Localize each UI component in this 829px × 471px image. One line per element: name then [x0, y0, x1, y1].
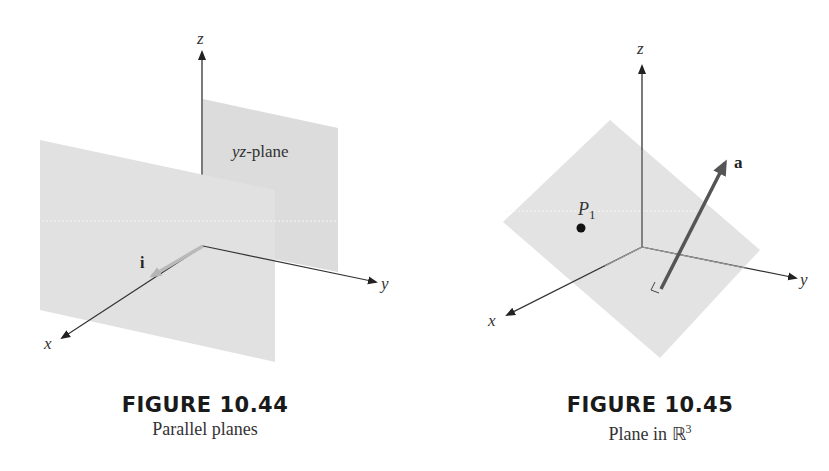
- y-axis-2-label: y: [798, 270, 808, 289]
- point-p1: [577, 224, 586, 233]
- plane-diamond: [503, 120, 760, 358]
- yz-plane-label-rest: -plane: [246, 142, 288, 161]
- caption-subtitle-text: Plane in: [609, 424, 672, 444]
- yz-plane-label: yz-plane: [230, 142, 289, 161]
- caption-title: FIGURE 10.45: [520, 392, 780, 418]
- caption-superscript: 3: [686, 422, 692, 436]
- caption-subtitle: Plane in ℝ3: [520, 418, 780, 445]
- point-p1-subscript: 1: [589, 207, 596, 222]
- real-numbers-symbol: ℝ: [672, 424, 686, 444]
- vector-i-label: i: [140, 254, 145, 271]
- z-axis-label: z: [196, 29, 204, 48]
- x-axis-2-label: x: [487, 311, 496, 330]
- caption-subtitle: Parallel planes: [75, 418, 335, 440]
- z-axis-2-label: z: [636, 39, 644, 58]
- vector-a-label: a: [734, 153, 743, 172]
- figure-page: z y x i yz-plane z y x a P1 FIGURE 10: [0, 0, 829, 471]
- yz-plane-label-italic: yz: [230, 142, 247, 161]
- caption-figure-10-44: FIGURE 10.44 Parallel planes: [75, 392, 335, 440]
- caption-figure-10-45: FIGURE 10.45 Plane in ℝ3: [520, 392, 780, 445]
- caption-title: FIGURE 10.44: [75, 392, 335, 418]
- x-axis-label: x: [43, 334, 52, 353]
- y-axis-label: y: [379, 274, 389, 293]
- point-p1-letter: P: [577, 199, 589, 219]
